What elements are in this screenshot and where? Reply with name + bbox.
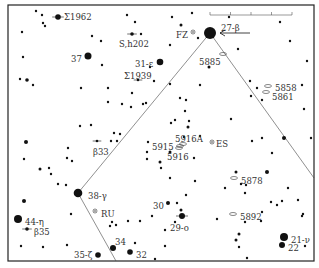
star-22: 22 bbox=[279, 242, 299, 253]
star-label: 34 bbox=[115, 237, 126, 247]
star-dot bbox=[134, 21, 136, 23]
star-dot bbox=[107, 101, 109, 103]
star-dot bbox=[166, 201, 170, 205]
star-label: 30 bbox=[153, 201, 164, 211]
star-sigma1939: Σ1939 bbox=[124, 71, 152, 81]
star-label: 38-γ bbox=[88, 191, 107, 201]
star-dot bbox=[90, 124, 92, 126]
star-dot bbox=[179, 97, 181, 99]
star-dot bbox=[57, 183, 59, 185]
star-dot bbox=[310, 137, 312, 139]
galaxy-icon bbox=[265, 85, 272, 88]
star-label: β35 bbox=[34, 227, 50, 237]
star-dot bbox=[22, 199, 26, 203]
star-dot bbox=[119, 133, 121, 135]
star-dot bbox=[50, 173, 52, 175]
star-31-epsilon: 31-ε bbox=[135, 59, 163, 69]
star-dot bbox=[70, 213, 72, 215]
star-label: 35-ζ bbox=[74, 250, 93, 260]
star-dot bbox=[184, 110, 186, 112]
star-dot bbox=[151, 215, 153, 217]
star-dot bbox=[131, 92, 133, 94]
star-dot bbox=[188, 120, 190, 122]
star-dot bbox=[79, 125, 81, 127]
star-dot bbox=[67, 147, 69, 149]
variable-star-center bbox=[94, 210, 95, 211]
star-dot bbox=[96, 140, 99, 143]
star-dot bbox=[249, 80, 251, 82]
object-ngc5861: 5861 bbox=[263, 91, 294, 103]
star-dot bbox=[32, 84, 34, 86]
star-dot bbox=[35, 10, 37, 12]
star-dot bbox=[126, 14, 128, 16]
star-dot bbox=[246, 257, 248, 259]
star-37: 37 bbox=[71, 53, 92, 65]
star-dot bbox=[130, 32, 134, 36]
star-dot bbox=[55, 14, 61, 20]
object-FZ: FZ bbox=[176, 30, 195, 40]
galaxy-icon bbox=[176, 147, 183, 150]
star-sh202: S,h202 bbox=[119, 32, 149, 49]
star-beta33: β33 bbox=[93, 140, 109, 157]
star-dot bbox=[115, 224, 117, 226]
star-dot bbox=[224, 187, 226, 189]
star-dot bbox=[256, 87, 258, 89]
star-dot bbox=[280, 233, 288, 241]
star-dot bbox=[281, 200, 283, 202]
star-30: 30 bbox=[153, 201, 170, 211]
star-dot bbox=[95, 252, 101, 258]
galaxy-icon bbox=[220, 53, 227, 56]
star-dot bbox=[14, 215, 22, 223]
star-dot bbox=[244, 192, 246, 194]
star-dot bbox=[66, 244, 68, 246]
star-dot bbox=[216, 218, 218, 220]
star-dot bbox=[127, 220, 129, 222]
star-dot bbox=[154, 258, 156, 260]
star-dot bbox=[91, 35, 93, 37]
star-dot bbox=[169, 177, 171, 179]
star-dot bbox=[130, 106, 132, 108]
object-label: 5916A bbox=[175, 134, 204, 144]
star-dot bbox=[140, 33, 142, 35]
star-dot bbox=[25, 227, 29, 231]
star-32: 32 bbox=[127, 249, 147, 260]
star-dot bbox=[85, 53, 92, 60]
star-dot bbox=[297, 199, 299, 201]
star-dot bbox=[20, 245, 22, 247]
star-dot bbox=[174, 119, 176, 121]
star-dot bbox=[142, 103, 144, 105]
star-dot bbox=[109, 225, 111, 227]
star-dot bbox=[237, 48, 239, 50]
star-dot bbox=[204, 27, 216, 39]
star-27-beta: 27-β bbox=[204, 23, 240, 39]
star-dot bbox=[111, 221, 113, 223]
star-dot bbox=[199, 84, 201, 86]
guide-line bbox=[210, 33, 314, 178]
star-dot bbox=[42, 246, 44, 248]
star-dot bbox=[276, 204, 278, 206]
star-dot bbox=[116, 140, 118, 142]
star-29-omicron: 29-ο bbox=[170, 213, 189, 233]
object-label: ES bbox=[216, 139, 228, 149]
star-dot bbox=[289, 40, 291, 42]
object-label: 5861 bbox=[272, 92, 294, 102]
scale-bar bbox=[210, 12, 292, 15]
star-chart: Σ196237S,h20231-εΣ193927-ββ3338-γ44-ηβ35… bbox=[0, 0, 319, 268]
star-dot bbox=[80, 87, 82, 89]
object-ngc5885: 5885 bbox=[199, 53, 227, 68]
object-ngc5878: 5878 bbox=[231, 176, 263, 186]
galaxy-icon bbox=[263, 91, 270, 94]
star-dot bbox=[74, 189, 83, 198]
star-label: 37 bbox=[71, 54, 82, 64]
star-dot bbox=[25, 78, 29, 82]
star-dot bbox=[301, 84, 303, 86]
labeled-stars: Σ196237S,h20231-εΣ193927-ββ3338-γ44-ηβ35… bbox=[14, 12, 310, 260]
star-dot bbox=[228, 16, 230, 18]
star-dot bbox=[153, 80, 155, 82]
variable-star-center bbox=[211, 141, 212, 142]
star-sigma1962: Σ1962 bbox=[52, 12, 91, 22]
variable-star-center bbox=[192, 31, 193, 32]
object-ngc5892: 5892 bbox=[230, 212, 262, 222]
star-dot bbox=[164, 229, 166, 231]
star-dot bbox=[171, 16, 173, 18]
